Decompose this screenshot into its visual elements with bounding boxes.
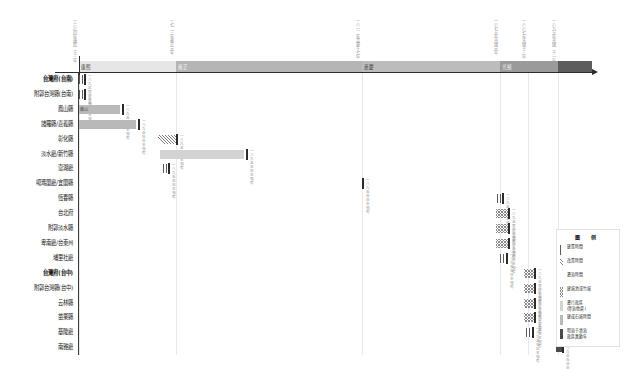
era-segment: 雍正 (176, 61, 362, 72)
legend-swatch (560, 329, 563, 339)
legend-title: 圖 例 (575, 233, 599, 240)
row-label: 彰化縣 (58, 134, 73, 144)
row-label: 諸羅縣/嘉義縣 (41, 119, 73, 129)
row-end-note-line: 日本領有 (171, 183, 175, 199)
row-end-note-line: 一八九五年 (141, 119, 145, 139)
legend-label: 建置時間 (567, 244, 583, 250)
row-end-marker (122, 104, 124, 115)
legend-swatch (560, 287, 563, 297)
x-tick-label-line: 一七二三年 (169, 18, 173, 38)
x-axis-origin-tick (79, 56, 80, 76)
y-axis-row-labels: 台灣府(台南)附郭台灣縣(台南)鳳山縣諸羅縣/嘉義縣彰化縣淡水廳/新竹縣澎湖廳噶… (0, 72, 78, 362)
x-tick-label: 一八八七年光緒十三年 (521, 18, 526, 58)
row-end-marker (84, 89, 86, 100)
row-label: 恆春縣 (58, 193, 73, 203)
legend-swatch (560, 273, 563, 283)
x-tick-label-line: 嘉慶十七年 (355, 38, 359, 58)
x-tick-label-line: 一八七五年 (493, 18, 497, 38)
timeline-bar: 鳳山 (79, 105, 120, 114)
era-segment: 嘉慶 (362, 61, 500, 72)
row-end-note: 一八九五年日本領有 (537, 298, 541, 309)
x-tick-label-line: 康熙二十三年 (72, 38, 76, 62)
legend-label: 改置時間 (567, 258, 583, 264)
legend-item: 遷行政區 (寄治他處) (560, 300, 620, 314)
x-tick-label-line: 雍正元年 (169, 38, 173, 54)
legend-label: 遷行政區 (寄治他處) (567, 300, 586, 312)
legend-item: 明治于清治 政區異動年 (560, 328, 620, 342)
row-end-marker (506, 253, 508, 264)
timeline-bar (160, 150, 244, 159)
row-end-note: 一八九五年日本領有 (249, 149, 253, 160)
row-end-note: 一八九五年日本領有 (537, 283, 541, 294)
row-end-note-line: 日本領有 (141, 139, 145, 155)
row-end-note: 一八九五年日本領有 (535, 327, 539, 338)
row-label: 附郭淡水縣 (48, 223, 73, 233)
x-tick-label-line: 光緒元年 (493, 38, 497, 54)
era-label: 嘉慶 (362, 63, 374, 70)
legend-swatch (560, 315, 563, 325)
timeline-bar (524, 299, 534, 308)
row-end-marker (176, 134, 178, 145)
row-end-note: 一八九五年日本領有 (171, 163, 175, 174)
row-end-note: 一八九五年日本領有 (511, 238, 515, 249)
row-end-note: 一八九五年日本領有 (537, 312, 541, 323)
row-label: 澎湖廳 (58, 164, 73, 174)
row-end-marker (532, 327, 534, 338)
legend-item: 建成石城時間 (560, 314, 620, 328)
row-label: 台灣府(台南) (43, 74, 73, 84)
timeline-bar (158, 135, 176, 144)
row-end-marker (502, 193, 504, 204)
row-end-note: 一八九五年日本領有 (141, 119, 145, 130)
timeline-bar (524, 284, 534, 293)
row-label: 附郭台灣縣(台中) (34, 283, 73, 293)
gantt-chart-root: 康熙雍正嘉慶光緒 一六八四年康熙二十三年一七二三年雍正元年一八一二年嘉慶十七年一… (0, 0, 623, 369)
row-end-note-line: 日本領有 (509, 273, 513, 289)
row-label: 鳳山縣 (58, 104, 73, 114)
row-end-note: 一八九五年日本領有 (505, 193, 509, 204)
x-tick-label-line: 一八一二年 (355, 18, 359, 38)
row-label: 淡水廳/新竹縣 (41, 149, 73, 159)
legend-label: 遷治時間 (567, 272, 583, 278)
timeline-bar (496, 239, 508, 248)
row-label: 云林縣 (58, 298, 73, 308)
x-tick-label-line: 一八八七年 (521, 18, 525, 38)
row-end-note-line: 一八九五年 (509, 253, 513, 273)
timeline-bar (524, 313, 534, 322)
row-end-note: 一八九五年日本領有 (365, 178, 369, 189)
era-segment: 康熙 (79, 61, 176, 72)
row-label: 南雅廳 (58, 342, 73, 352)
timeline-bar (496, 209, 508, 218)
legend-label: 建成石城時間 (567, 314, 591, 320)
row-label: 卑南廳/台東州 (41, 238, 73, 248)
row-label: 苗栗縣 (58, 313, 73, 323)
era-label: 雍正 (176, 63, 188, 70)
row-end-marker (138, 119, 140, 130)
row-end-marker (508, 208, 510, 219)
x-tick-label: 一七二三年雍正元年 (169, 18, 174, 58)
row-end-marker (508, 238, 510, 249)
row-end-note-line: 日本領有 (249, 169, 253, 185)
legend-label: 明治于清治 政區異動年 (567, 328, 587, 340)
x-tick-label-line: 光緒十三年 (521, 38, 525, 58)
row-end-note: 一八九五年日本領有 (125, 104, 129, 115)
gridline (362, 72, 363, 355)
row-label: 附郭台灣縣(台南) (34, 89, 73, 99)
row-end-note-line: 日本領有 (365, 198, 369, 214)
row-end-note-line: 日本領有 (565, 362, 569, 369)
legend-label: 建城池或竹城 (567, 286, 591, 292)
row-end-marker (84, 74, 86, 85)
row-end-marker (534, 298, 536, 309)
row-end-marker (534, 268, 536, 279)
era-segment: 光緒 (500, 61, 558, 72)
x-tick-label-line: 光緒二十一年 (551, 38, 555, 62)
row-label: 噶瑪蘭廳/宜蘭縣 (36, 178, 73, 188)
x-tick-label: 一八一二年嘉慶十七年 (355, 18, 360, 58)
legend-swatch (560, 245, 563, 255)
y-axis-line (78, 72, 79, 355)
row-end-note: 一八九五年日本領有 (511, 208, 515, 219)
timeline-bar (354, 179, 362, 188)
legend-items: 建置時間改置時間遷治時間建城池或竹城遷行政區 (寄治他處)建成石城時間明治于清治… (560, 244, 620, 342)
row-label: 基隆廳 (58, 327, 73, 337)
legend-item: 遷治時間 (560, 272, 620, 286)
gridline (79, 72, 80, 355)
